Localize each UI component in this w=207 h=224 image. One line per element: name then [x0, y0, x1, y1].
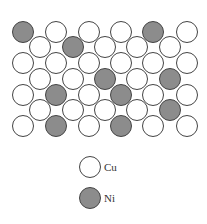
- cu-atom: [177, 85, 198, 106]
- cu-atom: [143, 116, 164, 137]
- ni-atom: [143, 22, 164, 43]
- cu-atom: [46, 53, 67, 74]
- ni-atom: [111, 116, 132, 137]
- cu-atom: [95, 100, 116, 121]
- cu-atom: [79, 85, 100, 106]
- cu-atom: [127, 37, 148, 58]
- cu-atom: [160, 37, 181, 58]
- cu-atom: [177, 22, 198, 43]
- ni-atom: [160, 100, 181, 121]
- cu-atom: [63, 69, 84, 90]
- cu-atom: [46, 22, 67, 43]
- legend: Cu Ni: [80, 157, 118, 209]
- cu-atom: [30, 100, 51, 121]
- ni-atom: [160, 69, 181, 90]
- ni-atom: [13, 22, 34, 43]
- ni-atom: [63, 37, 84, 58]
- cu-atom: [30, 69, 51, 90]
- cu-atom: [127, 69, 148, 90]
- cu-atom: [111, 22, 132, 43]
- cu-atom: [13, 53, 34, 74]
- cu-atom: [13, 116, 34, 137]
- cu-atom: [177, 53, 198, 74]
- cu-atom: [143, 85, 164, 106]
- ni-atom: [95, 69, 116, 90]
- cu-atom: [13, 85, 34, 106]
- legend-cu-label: Cu: [104, 161, 117, 173]
- ni-atom: [111, 85, 132, 106]
- legend-ni-atom-icon: [80, 188, 101, 209]
- cu-atom: [177, 116, 198, 137]
- ni-atom: [46, 85, 67, 106]
- cu-atom: [79, 53, 100, 74]
- cu-atom: [143, 53, 164, 74]
- cu-atom: [111, 53, 132, 74]
- cu-atom: [79, 22, 100, 43]
- cu-atom: [127, 100, 148, 121]
- cu-atom: [95, 37, 116, 58]
- legend-cu-atom-icon: [80, 157, 101, 178]
- atom-grid: [13, 22, 198, 137]
- ni-atom: [46, 116, 67, 137]
- legend-ni-label: Ni: [104, 192, 115, 204]
- cu-atom: [30, 37, 51, 58]
- cu-atom: [63, 100, 84, 121]
- lattice-diagram: Cu Ni: [0, 0, 207, 224]
- cu-atom: [79, 116, 100, 137]
